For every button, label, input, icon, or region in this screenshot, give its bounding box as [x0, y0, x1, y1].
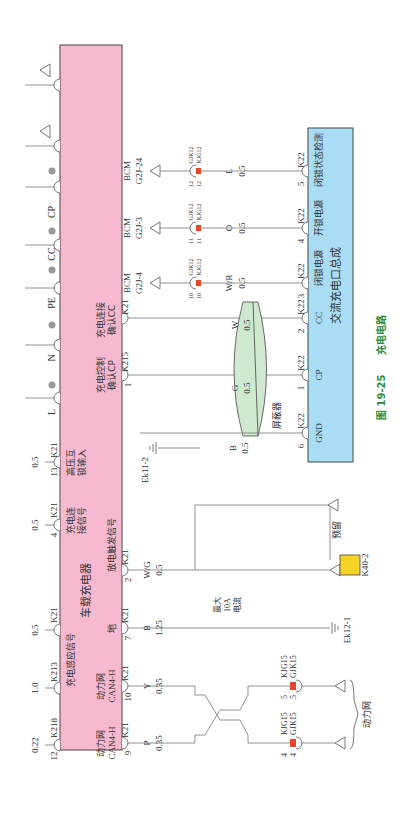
port-conn: K22 — [296, 263, 306, 279]
label-can-a: 动力网 — [95, 673, 106, 700]
triangle-warning-icon — [40, 125, 50, 138]
label-discharge-trigger: 放电触发信号 — [106, 518, 117, 572]
pin-label-pe: PE — [46, 297, 57, 309]
terminal-icon — [49, 228, 56, 235]
can-conn-num: 5 — [280, 695, 289, 699]
conn-num: 11 — [196, 238, 202, 244]
conn-num: 11 — [188, 238, 194, 244]
ground-icon — [332, 622, 338, 634]
pin-label-l: L — [46, 409, 57, 415]
pin-number: 12 — [49, 752, 59, 761]
wire-color: W — [230, 320, 240, 329]
can-conn-num: 4 — [280, 753, 289, 757]
label-cc-confirm: 确认CC — [106, 305, 117, 336]
wire-color: B — [142, 625, 152, 631]
wire-gauge: 1.25 — [154, 620, 164, 636]
conn-label: K21 — [120, 299, 130, 315]
k40-label: K40-2 — [360, 554, 370, 577]
label-ground: 地 — [106, 624, 117, 633]
port-pin: 5 — [296, 181, 306, 186]
bcm-label: BCM — [122, 218, 132, 238]
can-conn-a: KJG15 — [280, 712, 289, 735]
connector-red — [196, 225, 201, 231]
bcm-triangle-icon — [150, 165, 160, 177]
wire-color: W/R — [224, 275, 234, 292]
wire-gauge: 0.5 — [30, 624, 40, 636]
port-conn: K22 — [296, 208, 306, 224]
wire-gauge: 0.35 — [154, 678, 164, 694]
conn-label: K21 — [49, 502, 59, 518]
terminal-icon — [49, 168, 56, 175]
conn-num: 12 — [188, 181, 194, 187]
wire-gauge: 0.5 — [237, 165, 247, 177]
wire-gauge: 0.5 — [242, 319, 252, 331]
port-conn: K22 — [296, 152, 306, 168]
port-pin: 4 — [296, 238, 306, 243]
port-pin: 2 — [296, 329, 306, 334]
port-label-cc: CC — [314, 312, 324, 324]
connector-red — [290, 739, 296, 747]
can-conn-a: KJG15 — [280, 655, 289, 678]
conn-label: K21 — [49, 607, 59, 623]
reserved-triangle-icon — [328, 499, 338, 511]
wire-gauge: 0.5 — [237, 277, 247, 289]
port-conn: K22 — [296, 299, 306, 315]
conn-label: K21 — [120, 722, 130, 738]
can-network-label: 动力网 — [361, 701, 372, 728]
can-conn-num: 5 — [289, 695, 298, 699]
pin-label-cp: CP — [46, 205, 57, 218]
wire-color: P — [142, 740, 152, 745]
wire-color: L — [224, 168, 234, 174]
terminal-icon — [49, 267, 56, 274]
conn-gjk: GJK12 — [188, 146, 194, 163]
triangle-warning-icon — [40, 64, 50, 77]
reserved-label: 预留 — [331, 521, 342, 539]
can-conn-b: GJK15 — [289, 655, 298, 678]
port-pin: 3 — [296, 293, 306, 298]
can-twisted-pair — [195, 680, 358, 749]
pin-number: 7 — [123, 635, 133, 640]
conn-gjk: GJK12 — [188, 258, 194, 275]
conn-kjg: KJG12 — [196, 146, 202, 163]
wire-gauge: 0.5 — [30, 456, 40, 468]
conn-label: K213 — [49, 662, 59, 682]
port-label-cp: CP — [314, 369, 324, 380]
can-conn-num: 4 — [289, 753, 298, 757]
conn-label: K215 — [120, 352, 130, 372]
wire-color: Y — [142, 682, 152, 689]
can-triangle-icon — [335, 737, 345, 749]
shield-label: 屏蔽器 — [271, 402, 282, 429]
conn-label: K21 — [49, 442, 59, 458]
wire-gauge: 0.5 — [240, 442, 250, 454]
wire-color: W/G — [142, 561, 152, 579]
label-sense-signal: 充电感应信号 — [65, 633, 76, 687]
max-current-label: 电流 — [232, 597, 242, 613]
port-conn: K22 — [296, 355, 306, 371]
pin-number: 9 — [123, 750, 133, 755]
charging-circuit-diagram: CP CC PE N L K21 13 0.5 K21 4 0.5 K21 0.… — [0, 0, 397, 816]
bcm-pin: G2J-24 — [134, 157, 144, 184]
wire-gauge: 0.5 — [237, 222, 247, 234]
pin-label-cc: CC — [46, 247, 57, 261]
label-cc-confirm: 充电连接 — [95, 302, 106, 338]
charge-port-title: 交流充电口总成 — [329, 247, 343, 324]
conn-gjk: GJK12 — [188, 203, 194, 220]
ground-icon — [150, 442, 156, 454]
conn-kjg: KJG12 — [196, 203, 202, 220]
wire-gauge: 0.5 — [30, 519, 40, 531]
k40-triangle-icon — [330, 564, 340, 576]
bcm-triangle-icon — [150, 222, 160, 234]
label-can-a: CAN4-H — [107, 669, 117, 702]
bcm-pin: G2J-4 — [134, 272, 144, 294]
conn-label: K21 — [120, 607, 130, 623]
ground-label-ek11: Ek11-2 — [140, 457, 150, 483]
wire-gauge: 0.22 — [30, 737, 40, 753]
terminal-icon — [49, 322, 56, 329]
port-conn: K22 — [296, 413, 306, 429]
max-current-label: 10A — [223, 598, 232, 612]
bcm-label: BCM — [122, 273, 132, 293]
ground-label-ek12: Ek12-1 — [342, 617, 352, 644]
wire-gauge: 0.5 — [242, 382, 252, 394]
pin-number: 13 — [49, 467, 59, 477]
label-connect-signal: 充电连 — [65, 507, 76, 534]
